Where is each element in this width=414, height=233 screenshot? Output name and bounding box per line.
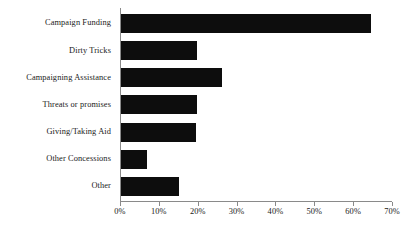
x-axis-tick [120, 202, 121, 206]
category-label-row: Giving/Taking Aid [0, 119, 116, 146]
x-axis-tick [392, 202, 393, 206]
x-axis-tick [353, 202, 354, 206]
category-label: Giving/Taking Aid [46, 128, 111, 136]
category-label-row: Threats or promises [0, 91, 116, 118]
bar [120, 95, 197, 114]
x-axis-tick [275, 202, 276, 206]
x-axis-tick-label: 50% [306, 207, 322, 216]
x-axis-tick-label: 0% [114, 207, 125, 216]
category-label: Campaigning Assistance [26, 74, 111, 82]
category-axis-labels: Campaign Funding Dirty Tricks Campaignin… [0, 10, 116, 200]
bar [120, 177, 179, 196]
bar [120, 123, 196, 142]
category-label-row: Campaign Funding [0, 10, 116, 37]
bar [120, 14, 371, 33]
bar-row [120, 119, 392, 146]
x-axis-tick-label: 10% [151, 207, 167, 216]
bar-chart: Campaign Funding Dirty Tricks Campaignin… [0, 0, 414, 233]
x-axis-tick-label: 30% [229, 207, 245, 216]
category-label-row: Other Concessions [0, 146, 116, 173]
x-axis-tick [314, 202, 315, 206]
x-axis-tick-label: 70% [384, 207, 400, 216]
category-label: Other [91, 182, 111, 190]
x-axis-tick-label: 60% [345, 207, 361, 216]
category-label: Other Concessions [46, 155, 111, 163]
x-axis-tick [237, 202, 238, 206]
bar [120, 41, 197, 60]
bar-row [120, 10, 392, 37]
category-label-row: Campaigning Assistance [0, 64, 116, 91]
category-label-row: Dirty Tricks [0, 37, 116, 64]
bar-series [120, 10, 392, 200]
bar-row [120, 91, 392, 118]
x-axis-tick-label: 40% [268, 207, 284, 216]
category-label-row: Other [0, 173, 116, 200]
bar-row [120, 37, 392, 64]
y-axis-line [120, 8, 121, 202]
plot-area [120, 10, 392, 200]
category-label: Threats or promises [43, 101, 111, 109]
category-label: Dirty Tricks [69, 47, 111, 55]
x-axis-tick [198, 202, 199, 206]
x-axis-line [120, 201, 392, 202]
bar-row [120, 64, 392, 91]
bar [120, 68, 222, 87]
bar-row [120, 146, 392, 173]
bar [120, 150, 147, 169]
category-label: Campaign Funding [45, 19, 111, 27]
x-axis-tick-label: 20% [190, 207, 206, 216]
x-axis-tick [159, 202, 160, 206]
bar-row [120, 173, 392, 200]
